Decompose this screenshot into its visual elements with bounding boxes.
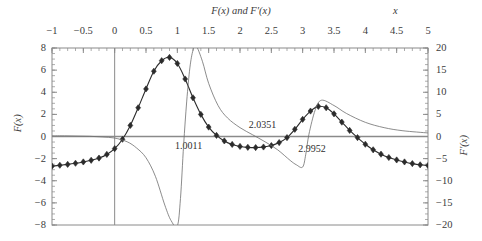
chart-figure: F(x) and F′(x) x F(x) F′(x) −1−0.500.511… <box>0 0 482 241</box>
series-1-markers <box>50 54 431 169</box>
reference-lines <box>52 48 428 225</box>
plot-canvas <box>0 0 482 241</box>
